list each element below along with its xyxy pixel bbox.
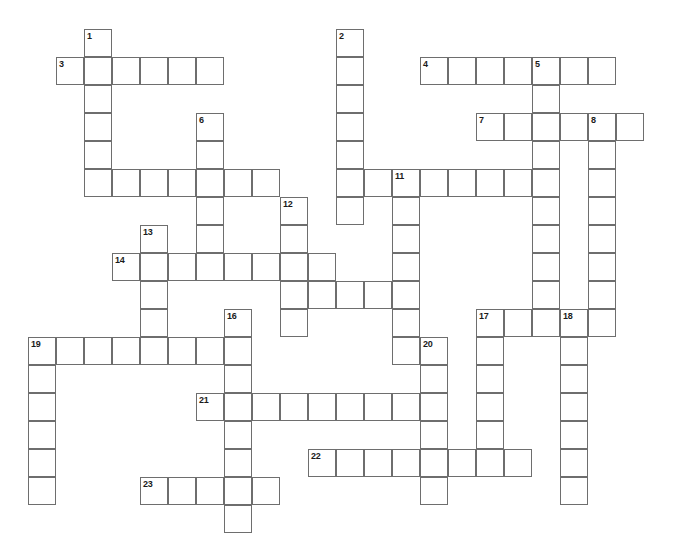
crossword-cell[interactable]: [112, 337, 140, 365]
crossword-cell[interactable]: [532, 225, 560, 253]
crossword-cell[interactable]: [84, 337, 112, 365]
crossword-cell[interactable]: [476, 309, 504, 337]
crossword-cell[interactable]: [560, 421, 588, 449]
crossword-cell[interactable]: [336, 141, 364, 169]
crossword-cell[interactable]: [532, 57, 560, 85]
crossword-cell[interactable]: [476, 113, 504, 141]
crossword-cell[interactable]: [420, 393, 448, 421]
crossword-cell[interactable]: [504, 57, 532, 85]
crossword-cell[interactable]: [224, 253, 252, 281]
crossword-cell[interactable]: [392, 169, 420, 197]
crossword-cell[interactable]: [336, 449, 364, 477]
crossword-cell[interactable]: [560, 449, 588, 477]
crossword-cell[interactable]: [532, 309, 560, 337]
crossword-cell[interactable]: [140, 57, 168, 85]
crossword-cell[interactable]: [196, 57, 224, 85]
crossword-cell[interactable]: [280, 253, 308, 281]
crossword-cell[interactable]: [28, 421, 56, 449]
crossword-cell[interactable]: [224, 393, 252, 421]
crossword-cell[interactable]: [588, 169, 616, 197]
crossword-cell[interactable]: [308, 449, 336, 477]
crossword-cell[interactable]: [476, 365, 504, 393]
crossword-cell[interactable]: [224, 449, 252, 477]
crossword-cell[interactable]: [476, 57, 504, 85]
crossword-cell[interactable]: [168, 169, 196, 197]
crossword-cell[interactable]: [392, 309, 420, 337]
crossword-cell[interactable]: [84, 141, 112, 169]
crossword-cell[interactable]: [140, 477, 168, 505]
crossword-cell[interactable]: [84, 169, 112, 197]
crossword-cell[interactable]: [336, 29, 364, 57]
crossword-cell[interactable]: [280, 281, 308, 309]
crossword-cell[interactable]: [392, 393, 420, 421]
crossword-cell[interactable]: [140, 225, 168, 253]
crossword-cell[interactable]: [168, 253, 196, 281]
crossword-cell[interactable]: [112, 57, 140, 85]
crossword-cell[interactable]: [140, 253, 168, 281]
crossword-cell[interactable]: [476, 337, 504, 365]
crossword-cell[interactable]: [560, 337, 588, 365]
crossword-cell[interactable]: [588, 57, 616, 85]
crossword-cell[interactable]: [420, 169, 448, 197]
crossword-cell[interactable]: [392, 281, 420, 309]
crossword-cell[interactable]: [364, 281, 392, 309]
crossword-cell[interactable]: [28, 365, 56, 393]
crossword-cell[interactable]: [504, 169, 532, 197]
crossword-cell[interactable]: [476, 393, 504, 421]
crossword-cell[interactable]: [252, 169, 280, 197]
crossword-cell[interactable]: [420, 477, 448, 505]
crossword-cell[interactable]: [196, 253, 224, 281]
crossword-cell[interactable]: [588, 113, 616, 141]
crossword-cell[interactable]: [336, 85, 364, 113]
crossword-cell[interactable]: [420, 57, 448, 85]
crossword-cell[interactable]: [420, 337, 448, 365]
crossword-cell[interactable]: [588, 225, 616, 253]
crossword-cell[interactable]: [616, 113, 644, 141]
crossword-cell[interactable]: [280, 393, 308, 421]
crossword-cell[interactable]: [196, 477, 224, 505]
crossword-cell[interactable]: [308, 253, 336, 281]
crossword-cell[interactable]: [560, 365, 588, 393]
crossword-cell[interactable]: [224, 169, 252, 197]
crossword-cell[interactable]: [56, 57, 84, 85]
crossword-cell[interactable]: [280, 197, 308, 225]
crossword-cell[interactable]: [588, 309, 616, 337]
crossword-cell[interactable]: [336, 57, 364, 85]
crossword-cell[interactable]: [560, 113, 588, 141]
crossword-cell[interactable]: [588, 281, 616, 309]
crossword-cell[interactable]: [28, 449, 56, 477]
crossword-cell[interactable]: [168, 477, 196, 505]
crossword-cell[interactable]: [588, 141, 616, 169]
crossword-cell[interactable]: [112, 253, 140, 281]
crossword-cell[interactable]: [532, 253, 560, 281]
crossword-cell[interactable]: [252, 253, 280, 281]
crossword-cell[interactable]: [196, 393, 224, 421]
crossword-cell[interactable]: [560, 393, 588, 421]
crossword-cell[interactable]: [168, 337, 196, 365]
crossword-cell[interactable]: [224, 337, 252, 365]
crossword-cell[interactable]: [140, 337, 168, 365]
crossword-cell[interactable]: [364, 169, 392, 197]
crossword-cell[interactable]: [392, 449, 420, 477]
crossword-cell[interactable]: [28, 337, 56, 365]
crossword-cell[interactable]: [336, 113, 364, 141]
crossword-cell[interactable]: [532, 141, 560, 169]
crossword-cell[interactable]: [476, 169, 504, 197]
crossword-cell[interactable]: [28, 477, 56, 505]
crossword-cell[interactable]: [392, 253, 420, 281]
crossword-cell[interactable]: [28, 393, 56, 421]
crossword-cell[interactable]: [504, 449, 532, 477]
crossword-cell[interactable]: [448, 57, 476, 85]
crossword-cell[interactable]: [224, 309, 252, 337]
crossword-cell[interactable]: [84, 57, 112, 85]
crossword-cell[interactable]: [224, 421, 252, 449]
crossword-cell[interactable]: [364, 449, 392, 477]
crossword-cell[interactable]: [532, 113, 560, 141]
crossword-cell[interactable]: [252, 477, 280, 505]
crossword-cell[interactable]: [84, 29, 112, 57]
crossword-cell[interactable]: [280, 225, 308, 253]
crossword-cell[interactable]: [560, 57, 588, 85]
crossword-cell[interactable]: [140, 169, 168, 197]
crossword-cell[interactable]: [280, 309, 308, 337]
